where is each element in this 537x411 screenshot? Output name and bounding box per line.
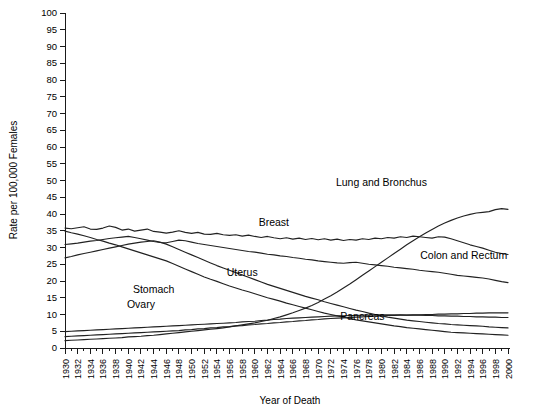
x-axis-tick-label: 1936 bbox=[98, 359, 108, 379]
x-axis-tick-label: 1968 bbox=[301, 359, 311, 379]
x-axis-tick-label: 1938 bbox=[111, 359, 121, 379]
x-axis-tick-label: 1974 bbox=[339, 359, 349, 379]
series-label-breast: Breast bbox=[259, 216, 289, 228]
y-axis-tick-label: 10 bbox=[46, 309, 57, 320]
y-axis-tick-label: 80 bbox=[46, 74, 57, 85]
y-axis-tick-label: 50 bbox=[46, 175, 57, 186]
series-label-pancreas: Pancreas bbox=[340, 310, 384, 322]
x-axis-tick-label: 1962 bbox=[263, 359, 273, 379]
x-axis-tick-label: 1934 bbox=[86, 359, 96, 379]
y-axis-tick-label: 85 bbox=[46, 57, 57, 68]
x-axis-tick-label: 1932 bbox=[73, 359, 83, 379]
x-axis-tick-label: 1966 bbox=[288, 359, 298, 379]
y-axis-tick-label: 20 bbox=[46, 275, 57, 286]
x-axis-tick-label: 1964 bbox=[276, 359, 286, 379]
y-axis-tick-label: 95 bbox=[46, 24, 57, 35]
y-axis-tick-label: 100 bbox=[41, 7, 57, 18]
series-label-colon-and-rectum: Colon and Rectum bbox=[420, 249, 507, 261]
x-axis-tick-label: 1956 bbox=[225, 359, 235, 379]
x-axis-tick-label: 1970 bbox=[314, 359, 324, 379]
x-axis-tick-label: 1940 bbox=[124, 359, 134, 379]
cancer-mortality-chart: 0510152025303540455055606570758085909510… bbox=[0, 0, 537, 411]
x-axis-tick-label: 1978 bbox=[364, 359, 374, 379]
x-axis-tick-label: 2000 bbox=[504, 359, 514, 379]
x-axis-tick-label: 1976 bbox=[352, 359, 362, 379]
x-axis-tick-label: 1984 bbox=[402, 359, 412, 379]
series-line-stomach bbox=[65, 231, 508, 335]
y-axis: 0510152025303540455055606570758085909510… bbox=[41, 7, 65, 353]
y-axis-tick-label: 40 bbox=[46, 208, 57, 219]
series-label-uterus: Uterus bbox=[227, 266, 258, 278]
series-label-ovary: Ovary bbox=[127, 298, 156, 310]
x-axis-tick-label: 1980 bbox=[377, 359, 387, 379]
y-axis-tick-label: 25 bbox=[46, 258, 57, 269]
y-axis-tick-label: 65 bbox=[46, 124, 57, 135]
x-axis-tick-label: 1998 bbox=[491, 359, 501, 379]
x-axis-tick-label: 1946 bbox=[162, 359, 172, 379]
series-label-stomach: Stomach bbox=[133, 283, 175, 295]
chart-canvas: 0510152025303540455055606570758085909510… bbox=[0, 0, 537, 411]
y-axis-tick-label: 90 bbox=[46, 41, 57, 52]
y-axis-tick-label: 55 bbox=[46, 158, 57, 169]
x-axis-tick-label: 1996 bbox=[478, 359, 488, 379]
x-axis-tick-label: 1948 bbox=[174, 359, 184, 379]
x-axis-tick-label: 1954 bbox=[212, 359, 222, 379]
y-axis-tick-label: 30 bbox=[46, 242, 57, 253]
y-axis-tick-label: 70 bbox=[46, 108, 57, 119]
x-axis: 1930193219341936193819401942194419461948… bbox=[61, 348, 514, 379]
series-labels: Lung and BronchusBreastColon and RectumS… bbox=[127, 176, 507, 323]
y-axis-tick-label: 45 bbox=[46, 191, 57, 202]
x-axis-tick-label: 1986 bbox=[415, 359, 425, 379]
series-line-lung-and-bronchus bbox=[65, 209, 508, 341]
series-lines bbox=[65, 209, 508, 341]
x-axis-tick-label: 1944 bbox=[149, 359, 159, 379]
x-axis-tick-label: 1992 bbox=[453, 359, 463, 379]
x-axis-tick-label: 1972 bbox=[326, 359, 336, 379]
x-axis-tick-label: 1930 bbox=[61, 359, 71, 379]
x-axis-tick-label: 1958 bbox=[238, 359, 248, 379]
x-axis-tick-label: 1990 bbox=[440, 359, 450, 379]
y-axis-title: Rate per 100,000 Females bbox=[8, 121, 19, 239]
x-axis-tick-label: 1994 bbox=[466, 359, 476, 379]
y-axis-tick-label: 0 bbox=[52, 342, 57, 353]
x-axis-tick-label: 1982 bbox=[390, 359, 400, 379]
x-axis-tick-label: 1942 bbox=[136, 359, 146, 379]
x-axis-tick-label: 1952 bbox=[200, 359, 210, 379]
y-axis-tick-label: 35 bbox=[46, 225, 57, 236]
series-label-lung-and-bronchus: Lung and Bronchus bbox=[336, 176, 427, 188]
y-axis-tick-label: 75 bbox=[46, 91, 57, 102]
y-axis-tick-label: 60 bbox=[46, 141, 57, 152]
x-axis-tick-label: 1960 bbox=[250, 359, 260, 379]
y-axis-tick-label: 5 bbox=[52, 325, 57, 336]
y-axis-tick-label: 15 bbox=[46, 292, 57, 303]
x-axis-tick-label: 1950 bbox=[187, 359, 197, 379]
x-axis-title: Year of Death bbox=[260, 395, 321, 406]
x-axis-tick-label: 1988 bbox=[428, 359, 438, 379]
